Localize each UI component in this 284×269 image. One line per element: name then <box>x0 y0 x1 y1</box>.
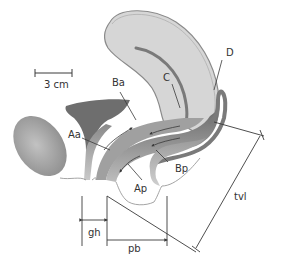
label-C: C <box>163 72 170 83</box>
label-gh: gh <box>88 227 101 238</box>
label-pb: pb <box>128 243 141 254</box>
pubic-bone <box>2 106 78 186</box>
gh-measure <box>82 196 107 246</box>
label-D: D <box>226 47 234 58</box>
label-Ap: Ap <box>134 183 147 194</box>
label-Aa: Aa <box>68 129 81 140</box>
pb-measure <box>107 196 167 246</box>
label-Bp: Bp <box>175 163 188 174</box>
label-Ba: Ba <box>112 77 125 88</box>
uterus <box>104 11 219 133</box>
pelvic-organ-diagram: 3 cm Ba Aa C D Ap Bp gh pb tvl <box>0 0 284 269</box>
scale-bar-label: 3 cm <box>44 79 69 90</box>
label-tvl: tvl <box>234 191 247 202</box>
uterus-body <box>104 11 219 133</box>
scale-bar: 3 cm <box>35 69 72 90</box>
